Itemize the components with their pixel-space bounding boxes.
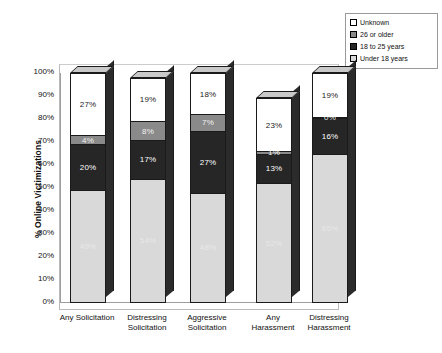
y-axis-tick-label: 100% — [22, 68, 54, 76]
x-axis-category-label-line: Solicitation — [116, 323, 178, 333]
bar-segment[interactable]: 49% — [70, 190, 106, 303]
bar-segment[interactable]: 16% — [312, 118, 348, 155]
bar-segment[interactable]: 8% — [130, 121, 166, 139]
bar-segment-value-label: 8% — [142, 127, 154, 136]
y-axis-tick-label: 70% — [22, 137, 54, 145]
y-axis-tick-label: 20% — [22, 252, 54, 260]
bar-top-face — [130, 71, 174, 78]
bar-stack: 49%20%4%27% — [70, 73, 106, 303]
bar-segment-value-label: 19% — [322, 91, 338, 100]
legend-item[interactable]: Under 18 years — [350, 53, 434, 64]
y-axis-tick-label: 10% — [22, 275, 54, 283]
bar-segment[interactable]: 19% — [130, 78, 166, 122]
bar-segment-value-label: 4% — [82, 136, 94, 145]
bar-segment-value-label: 17% — [140, 155, 156, 164]
bar-column[interactable]: 52%13%1%23% — [256, 73, 300, 303]
x-axis-category-label-line: Any — [242, 313, 304, 323]
bar-side-face — [166, 65, 174, 297]
bar-segment-value-label: 52% — [266, 239, 282, 248]
legend-swatch-icon — [350, 43, 357, 50]
legend-swatch-icon — [350, 31, 357, 38]
bar-segment[interactable]: 65% — [312, 154, 348, 303]
bar-segment[interactable]: 7% — [190, 114, 226, 130]
bar-segment-value-label: 13% — [266, 164, 282, 173]
bar-segment[interactable]: 20% — [70, 144, 106, 190]
x-axis-category-label-line: Aggressive — [176, 313, 238, 323]
bar-stack: 54%17%8%19% — [130, 73, 166, 303]
x-axis-category-label-line: Distressing — [298, 313, 360, 323]
y-axis-tick-label: 50% — [22, 183, 54, 191]
bar-segment-value-label: 7% — [202, 118, 214, 127]
bar-side-face — [106, 60, 114, 297]
bar-segment[interactable]: 48% — [190, 193, 226, 303]
legend-item-label: Under 18 years — [360, 55, 408, 63]
x-axis-category-label: DistressingHarassment — [298, 313, 360, 333]
legend-item-label: 26 or older — [360, 31, 393, 39]
bar-segment-value-label: 65% — [322, 224, 338, 233]
y-axis-line — [60, 73, 61, 303]
legend-item[interactable]: 18 to 25 years — [350, 41, 434, 52]
x-axis-category-label: AggressiveSolicitation — [176, 313, 238, 333]
bar-column[interactable]: 65%16%0%19% — [312, 73, 356, 303]
bar-segment[interactable]: 54% — [130, 179, 166, 303]
bar-segment[interactable]: 0% — [312, 117, 348, 118]
bar-segment-value-label: 54% — [140, 236, 156, 245]
bar-segment-value-label: 23% — [266, 121, 282, 130]
bar-side-face — [348, 60, 356, 297]
bar-column[interactable]: 48%27%7%18% — [190, 73, 234, 303]
bar-segment[interactable]: 4% — [70, 135, 106, 144]
x-axis-category-label: Any Solicitation — [56, 313, 118, 323]
x-axis-category-label-line: Distressing — [116, 313, 178, 323]
bar-stack: 48%27%7%18% — [190, 73, 226, 303]
y-axis-tick-label: 60% — [22, 160, 54, 168]
x-axis-category-labels: Any SolicitationDistressingSolicitationA… — [59, 313, 339, 349]
legend-item[interactable]: Unknown — [350, 17, 434, 28]
bar-stack: 65%16%0%19% — [312, 73, 348, 303]
y-axis-tick-labels: 100%90%80%70%60%50%40%30%20%10%0% — [22, 72, 54, 302]
legend-item[interactable]: 26 or older — [350, 29, 434, 40]
bar-segment[interactable]: 19% — [312, 73, 348, 117]
bar-column[interactable]: 54%17%8%19% — [130, 73, 174, 303]
x-axis-category-label-line: Any Solicitation — [56, 313, 118, 323]
bar-segment-value-label: 27% — [200, 158, 216, 167]
bar-segment[interactable]: 27% — [70, 73, 106, 135]
y-axis-tick-label: 0% — [22, 298, 54, 306]
bar-segment-value-label: 48% — [200, 243, 216, 252]
x-axis-category-label: DistressingSolicitation — [116, 313, 178, 333]
y-axis-tick-label: 30% — [22, 229, 54, 237]
chart-legend: Unknown26 or older18 to 25 yearsUnder 18… — [345, 13, 438, 69]
bar-column[interactable]: 49%20%4%27% — [70, 73, 114, 303]
bar-segment-value-label: 18% — [200, 90, 216, 99]
bar-segment[interactable]: 13% — [256, 154, 292, 184]
bar-segment-value-label: 19% — [140, 95, 156, 104]
bar-segment-value-label: 20% — [80, 163, 96, 172]
legend-item-label: 18 to 25 years — [360, 43, 404, 51]
bar-segment-value-label: 27% — [80, 100, 96, 109]
y-axis-tick-label: 40% — [22, 206, 54, 214]
bar-segment[interactable]: 23% — [256, 98, 292, 151]
bar-segment[interactable]: 1% — [256, 151, 292, 153]
bar-segment[interactable]: 52% — [256, 183, 292, 303]
bar-segment-value-label: 16% — [322, 132, 338, 141]
x-axis-category-label-line: Harassment — [298, 323, 360, 333]
x-axis-category-label-line: Solicitation — [176, 323, 238, 333]
plot-inner: 49%20%4%27%54%17%8%19%48%27%7%18%52%13%1… — [60, 73, 338, 303]
stacked-bar-chart: Unknown26 or older18 to 25 yearsUnder 18… — [0, 0, 442, 353]
bar-side-face — [292, 86, 300, 297]
y-axis-tick-label: 80% — [22, 114, 54, 122]
legend-swatch-icon — [350, 19, 357, 26]
bar-segment-value-label: 49% — [80, 242, 96, 251]
bar-segment[interactable]: 27% — [190, 131, 226, 193]
legend-item-label: Unknown — [360, 19, 389, 27]
bar-segment[interactable]: 18% — [190, 73, 226, 114]
bar-segment[interactable]: 17% — [130, 140, 166, 179]
x-axis-category-label-line: Harassment — [242, 323, 304, 333]
bar-stack: 52%13%1%23% — [256, 73, 292, 303]
x-axis-category-label: AnyHarassment — [242, 313, 304, 333]
y-axis-tick-label: 90% — [22, 91, 54, 99]
bar-side-face — [226, 60, 234, 297]
plot-area: 49%20%4%27%54%17%8%19%48%27%7%18%52%13%1… — [59, 64, 339, 310]
